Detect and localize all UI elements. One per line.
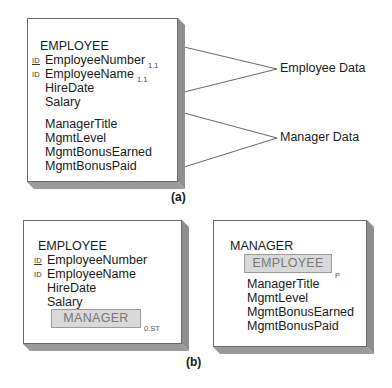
entity-title: EMPLOYEE — [38, 239, 107, 253]
subtype-cardinality: 0.ST — [144, 324, 160, 333]
supertype-ref-marker: P — [335, 271, 340, 280]
attribute-mgmt-bonus-earned: MgmtBonusEarned — [247, 305, 354, 319]
annotation-manager-data: Manager Data — [280, 130, 359, 144]
cardinality-label: 1.1 — [148, 61, 158, 70]
entity-3d-bottom — [27, 182, 185, 189]
identifier-marker: ID — [32, 54, 40, 68]
attribute-employee-number: EmployeeNumber — [47, 253, 147, 267]
attribute-mgmt-bonus-paid: MgmtBonusPaid — [247, 319, 339, 333]
entity-3d-side — [367, 220, 374, 354]
attribute-mgmt-bonus-paid: MgmtBonusPaid — [45, 159, 137, 173]
attribute-employee-name: EmployeeName — [47, 267, 136, 281]
entity-3d-side — [182, 220, 189, 351]
annotation-employee-data: Employee Data — [280, 61, 365, 75]
attribute-hire-date: HireDate — [47, 281, 96, 295]
attribute-mgmt-bonus-earned: MgmtBonusEarned — [45, 145, 152, 159]
figure-label-b: (b) — [186, 355, 201, 369]
entity-title: EMPLOYEE — [40, 39, 109, 53]
subtype-group-manager: MANAGER — [51, 309, 141, 328]
connector-manager-bottom — [184, 138, 277, 167]
attribute-salary: Salary — [47, 295, 82, 309]
cardinality-label: 1.1 — [137, 75, 147, 84]
attribute-manager-title: ManagerTitle — [247, 277, 320, 291]
figure-label-a: (a) — [171, 190, 186, 204]
entity-title: MANAGER — [230, 239, 293, 253]
attribute-mgmt-level: MgmtLevel — [247, 291, 308, 305]
supertype-ref-employee: EMPLOYEE — [244, 254, 332, 273]
attribute-mgmt-level: MgmtLevel — [45, 131, 106, 145]
entity-3d-side — [178, 18, 185, 189]
entity-3d-bottom — [23, 344, 189, 351]
connector-manager-top — [184, 113, 277, 138]
identifier-marker: ID — [34, 254, 42, 268]
connector-employee-bottom — [184, 69, 277, 92]
attribute-salary: Salary — [45, 95, 80, 109]
attribute-hire-date: HireDate — [45, 81, 94, 95]
connector-employee-top — [184, 47, 277, 69]
identifier-marker: ID — [32, 68, 40, 82]
entity-manager-b: MANAGER EMPLOYEE P ManagerTitle MgmtLeve… — [213, 220, 367, 347]
identifier-marker: ID — [34, 268, 42, 282]
entity-3d-bottom — [213, 347, 374, 354]
entity-employee-a: EMPLOYEE ID EmployeeNumber1.1 ID Employe… — [27, 18, 178, 182]
entity-employee-b: EMPLOYEE ID EmployeeNumber ID EmployeeNa… — [23, 220, 182, 344]
attribute-manager-title: ManagerTitle — [45, 117, 118, 131]
